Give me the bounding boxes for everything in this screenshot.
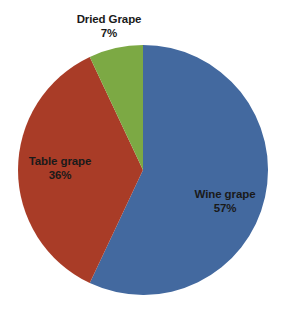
pie-label-wine-grape: Wine grape 57% (174, 187, 276, 215)
pie-label-table-grape-value: 36% (8, 168, 112, 182)
pie-label-dried-grape-value: 7% (46, 26, 172, 40)
pie-label-table-grape: Table grape 36% (8, 154, 112, 182)
pie-label-dried-grape-name: Dried Grape (46, 12, 172, 26)
pie-chart: Dried Grape 7% Table grape 36% Wine grap… (0, 0, 285, 318)
pie-label-wine-grape-name: Wine grape (174, 187, 276, 201)
pie-label-dried-grape: Dried Grape 7% (46, 12, 172, 40)
pie-label-table-grape-name: Table grape (8, 154, 112, 168)
pie-label-wine-grape-value: 57% (174, 201, 276, 215)
